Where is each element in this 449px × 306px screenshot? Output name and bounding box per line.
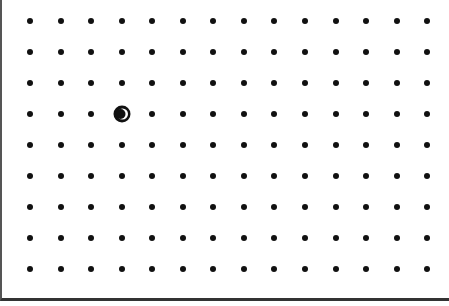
grid-dot[interactable] bbox=[149, 173, 155, 179]
grid-dot[interactable] bbox=[180, 111, 186, 117]
grid-dot[interactable] bbox=[241, 235, 247, 241]
grid-dot[interactable] bbox=[119, 173, 125, 179]
grid-dot[interactable] bbox=[271, 173, 277, 179]
grid-dot[interactable] bbox=[424, 204, 430, 210]
grid-dot[interactable] bbox=[88, 80, 94, 86]
grid-dot[interactable] bbox=[27, 49, 33, 55]
grid-dot[interactable] bbox=[333, 235, 339, 241]
grid-dot[interactable] bbox=[27, 266, 33, 272]
grid-dot[interactable] bbox=[333, 173, 339, 179]
grid-dot[interactable] bbox=[27, 142, 33, 148]
grid-dot[interactable] bbox=[180, 49, 186, 55]
grid-dot[interactable] bbox=[394, 204, 400, 210]
grid-dot[interactable] bbox=[271, 49, 277, 55]
grid-dot[interactable] bbox=[424, 142, 430, 148]
grid-dot[interactable] bbox=[241, 80, 247, 86]
grid-dot[interactable] bbox=[394, 18, 400, 24]
grid-dot[interactable] bbox=[363, 49, 369, 55]
grid-dot[interactable] bbox=[88, 18, 94, 24]
grid-dot[interactable] bbox=[333, 204, 339, 210]
grid-dot[interactable] bbox=[149, 18, 155, 24]
grid-dot[interactable] bbox=[241, 204, 247, 210]
grid-dot[interactable] bbox=[302, 18, 308, 24]
grid-dot[interactable] bbox=[210, 80, 216, 86]
grid-dot[interactable] bbox=[363, 80, 369, 86]
grid-dot[interactable] bbox=[271, 204, 277, 210]
grid-dot[interactable] bbox=[424, 111, 430, 117]
grid-dot[interactable] bbox=[424, 235, 430, 241]
grid-dot[interactable] bbox=[271, 142, 277, 148]
grid-dot[interactable] bbox=[210, 49, 216, 55]
grid-dot[interactable] bbox=[363, 266, 369, 272]
grid-dot[interactable] bbox=[119, 235, 125, 241]
grid-dot[interactable] bbox=[302, 80, 308, 86]
grid-dot[interactable] bbox=[333, 18, 339, 24]
grid-dot[interactable] bbox=[88, 142, 94, 148]
grid-dot[interactable] bbox=[271, 18, 277, 24]
grid-dot[interactable] bbox=[180, 235, 186, 241]
grid-dot[interactable] bbox=[58, 111, 64, 117]
grid-dot[interactable] bbox=[149, 142, 155, 148]
grid-dot[interactable] bbox=[58, 204, 64, 210]
grid-dot[interactable] bbox=[180, 173, 186, 179]
grid-dot[interactable] bbox=[210, 142, 216, 148]
grid-dot[interactable] bbox=[58, 49, 64, 55]
grid-dot[interactable] bbox=[333, 142, 339, 148]
grid-dot[interactable] bbox=[180, 204, 186, 210]
grid-dot[interactable] bbox=[302, 204, 308, 210]
grid-dot[interactable] bbox=[424, 266, 430, 272]
grid-dot[interactable] bbox=[210, 111, 216, 117]
grid-dot[interactable] bbox=[363, 18, 369, 24]
grid-dot[interactable] bbox=[424, 80, 430, 86]
grid-dot[interactable] bbox=[210, 173, 216, 179]
grid-dot[interactable] bbox=[333, 80, 339, 86]
grid-dot[interactable] bbox=[241, 18, 247, 24]
grid-dot[interactable] bbox=[394, 80, 400, 86]
grid-dot[interactable] bbox=[394, 235, 400, 241]
grid-dot[interactable] bbox=[394, 142, 400, 148]
grid-dot[interactable] bbox=[333, 49, 339, 55]
grid-dot[interactable] bbox=[149, 80, 155, 86]
grid-dot[interactable] bbox=[180, 142, 186, 148]
grid-dot[interactable] bbox=[119, 204, 125, 210]
grid-dot[interactable] bbox=[119, 142, 125, 148]
grid-dot[interactable] bbox=[394, 173, 400, 179]
grid-dot[interactable] bbox=[180, 18, 186, 24]
grid-dot[interactable] bbox=[88, 111, 94, 117]
grid-dot[interactable] bbox=[363, 142, 369, 148]
grid-dot[interactable] bbox=[149, 235, 155, 241]
grid-dot[interactable] bbox=[119, 80, 125, 86]
grid-dot[interactable] bbox=[119, 49, 125, 55]
grid-dot[interactable] bbox=[394, 49, 400, 55]
grid-dot[interactable] bbox=[58, 266, 64, 272]
grid-dot[interactable] bbox=[180, 80, 186, 86]
grid-dot[interactable] bbox=[271, 266, 277, 272]
grid-dot[interactable] bbox=[180, 266, 186, 272]
grid-dot[interactable] bbox=[363, 111, 369, 117]
grid-dot[interactable] bbox=[88, 49, 94, 55]
grid-dot[interactable] bbox=[333, 266, 339, 272]
grid-dot[interactable] bbox=[271, 111, 277, 117]
grid-dot[interactable] bbox=[424, 173, 430, 179]
grid-dot[interactable] bbox=[210, 235, 216, 241]
grid-dot[interactable] bbox=[27, 18, 33, 24]
grid-dot[interactable] bbox=[58, 173, 64, 179]
grid-dot[interactable] bbox=[119, 266, 125, 272]
grid-dot[interactable] bbox=[58, 18, 64, 24]
grid-dot[interactable] bbox=[27, 173, 33, 179]
grid-dot[interactable] bbox=[27, 235, 33, 241]
grid-dot[interactable] bbox=[27, 80, 33, 86]
grid-dot[interactable] bbox=[241, 266, 247, 272]
grid-dot[interactable] bbox=[27, 204, 33, 210]
grid-dot[interactable] bbox=[241, 49, 247, 55]
grid-dot[interactable] bbox=[210, 204, 216, 210]
grid-dot[interactable] bbox=[210, 18, 216, 24]
grid-dot[interactable] bbox=[302, 111, 308, 117]
grid-dot[interactable] bbox=[149, 204, 155, 210]
grid-dot[interactable] bbox=[241, 111, 247, 117]
grid-dot[interactable] bbox=[58, 142, 64, 148]
grid-dot[interactable] bbox=[119, 18, 125, 24]
grid-dot[interactable] bbox=[394, 266, 400, 272]
grid-dot[interactable] bbox=[149, 49, 155, 55]
grid-dot[interactable] bbox=[210, 266, 216, 272]
